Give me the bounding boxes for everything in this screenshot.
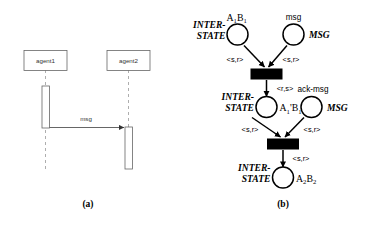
arc-label-transition1-to-interstate2: <r,s> [277,84,293,93]
place-token-interstate-3: A2B2 [296,173,316,186]
arc-label-ackmsg-to-transition2: <s,r> [304,125,321,134]
place-ack-msg[interactable] [301,97,322,118]
place-label-ack-msg: ack-msg [298,85,329,94]
arc-label-transition2-to-interstate3: <s,r> [293,154,310,163]
place-interstate-3[interactable] [273,167,294,188]
actor-label-agent1: agent1 [36,57,55,64]
arc-label-interstate2-to-transition2: <s,r> [242,125,259,134]
arc-label-msg-to-transition1: <s,r> [283,55,300,64]
token2-letter-a: A [280,102,287,113]
token-sub-b: 1 [243,17,246,24]
place-label-interstate-2-line2: STATE [225,102,254,113]
arc-label-interstate1-to-transition1: <s,r> [227,55,244,64]
place-interstate-1[interactable] [227,24,248,45]
place-type-msg: MSG [308,29,330,40]
token3-letter-a: A [296,173,303,184]
place-token-interstate-2: A1'B1' [280,102,304,115]
place-interstate-2[interactable] [256,97,277,118]
actor-label-agent2: agent2 [119,57,138,64]
place-label-interstate-3-line1: INTER- [237,162,271,173]
caption-panel-a: (a) [82,199,93,210]
figure-root: agent1 agent2 msg (a) [0,0,377,228]
caption-panel-b: (b) [277,199,289,210]
figure-canvas: agent1 agent2 msg (a) [0,0,377,228]
arc-interstate1-to-transition1 [244,46,265,68]
arc-ackmsg-to-transition2 [285,118,304,138]
activation-bar-agent1[interactable] [42,86,50,128]
place-type-ack-msg: MSG [326,102,348,113]
panel-a-sequence-diagram: agent1 agent2 msg (a) [24,51,150,211]
message-label-msg: msg [80,115,92,122]
transition-2[interactable] [268,139,299,149]
activation-bar-agent2[interactable] [125,127,133,169]
place-label-interstate-1-line1: INTER- [192,19,226,30]
transition-1[interactable] [251,69,282,79]
panel-b-petri-net: INTER- STATE A1B1 msg MSG <s,r> <s,r> <r… [192,12,348,211]
token-letter-a: A [227,12,234,23]
place-label-interstate-1-line2: STATE [197,30,226,41]
place-label-interstate-2-line1: INTER- [220,91,254,102]
token3-sub-b: 2 [313,178,316,185]
place-token-interstate-1: A1B1 [227,12,247,25]
place-msg[interactable] [283,24,304,45]
place-label-msg: msg [286,13,302,22]
place-label-interstate-3-line2: STATE [242,173,271,184]
